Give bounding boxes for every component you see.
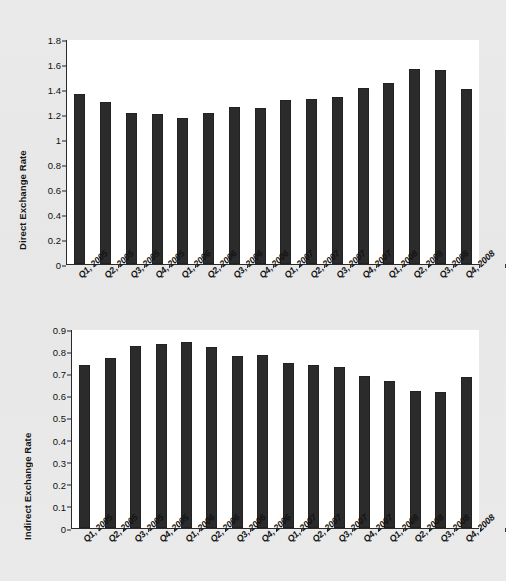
bar-slot bbox=[299, 40, 325, 264]
bar-slot bbox=[402, 40, 428, 264]
bar bbox=[74, 94, 85, 264]
bar-slot bbox=[93, 40, 119, 264]
bar bbox=[105, 358, 116, 528]
bar bbox=[334, 367, 345, 528]
y-tick-label: 0.6 bbox=[53, 391, 66, 402]
bar bbox=[177, 118, 188, 264]
bar-slot bbox=[170, 40, 196, 264]
y-tick-label: 0.2 bbox=[48, 235, 61, 246]
bar-slot bbox=[123, 330, 148, 528]
bar bbox=[461, 377, 472, 528]
y-tick-label: 1.2 bbox=[48, 110, 61, 121]
bar-slot bbox=[326, 330, 351, 528]
bar bbox=[255, 108, 266, 264]
bar bbox=[181, 342, 192, 528]
y-axis-ticks-bottom: 00.10.20.30.40.50.60.70.80.9 bbox=[45, 330, 71, 530]
bar-slot bbox=[119, 40, 145, 264]
bar bbox=[232, 356, 243, 528]
x-axis-labels-bottom: Q1, 2005Q2, 2005Q3, 2005Q4, 2005Q1, 2006… bbox=[98, 528, 506, 581]
bar bbox=[257, 355, 268, 528]
bar-slot bbox=[301, 330, 326, 528]
bar-slot bbox=[352, 330, 377, 528]
y-tick-label: 1.6 bbox=[48, 60, 61, 71]
bar bbox=[461, 89, 472, 264]
y-tick-mark bbox=[62, 265, 66, 266]
y-tick-label: 0.9 bbox=[53, 325, 66, 336]
y-tick-label: 0.8 bbox=[48, 160, 61, 171]
y-tick-label: 0.2 bbox=[53, 479, 66, 490]
chart-indirect-exchange-rate: Indirect Exchange Rate 00.10.20.30.40.50… bbox=[0, 305, 505, 581]
bar bbox=[435, 70, 446, 264]
bar-group-top bbox=[67, 40, 479, 264]
y-tick-label: 0.5 bbox=[53, 413, 66, 424]
y-tick-label: 1.8 bbox=[48, 35, 61, 46]
bar bbox=[152, 114, 163, 264]
bar-slot bbox=[148, 330, 173, 528]
bar bbox=[203, 113, 214, 264]
bar-slot bbox=[350, 40, 376, 264]
bar bbox=[306, 99, 317, 264]
bar-group-bottom bbox=[72, 330, 479, 528]
y-tick-label: 1 bbox=[56, 135, 61, 146]
plot-wrapper-top: 00.20.40.60.811.21.41.61.8 Q1, 2005Q2, 2… bbox=[40, 40, 480, 266]
y-tick-label: 0.6 bbox=[48, 185, 61, 196]
bar bbox=[206, 347, 217, 528]
bar bbox=[384, 381, 395, 528]
bar bbox=[332, 97, 343, 265]
bar bbox=[359, 376, 370, 528]
bar bbox=[280, 100, 291, 264]
bar-slot bbox=[225, 330, 250, 528]
bar-slot bbox=[97, 330, 122, 528]
bar-slot bbox=[428, 330, 453, 528]
bar-slot bbox=[273, 40, 299, 264]
y-tick-mark bbox=[67, 529, 71, 530]
bar bbox=[126, 113, 137, 264]
y-tick-label: 0.4 bbox=[53, 435, 66, 446]
y-tick-label: 0.1 bbox=[53, 501, 66, 512]
y-tick-label: 0.3 bbox=[53, 457, 66, 468]
bar bbox=[409, 69, 420, 264]
y-axis-label: Indirect Exchange Rate bbox=[22, 360, 33, 540]
bar-slot bbox=[199, 330, 224, 528]
y-tick-label: 0.4 bbox=[48, 210, 61, 221]
bar bbox=[229, 107, 240, 265]
bar bbox=[358, 88, 369, 264]
bar-slot bbox=[403, 330, 428, 528]
bar bbox=[79, 365, 90, 528]
x-label-slot: Q4, 2008 bbox=[481, 528, 506, 581]
y-axis-label: Direct Exchange Rate bbox=[17, 70, 28, 250]
bar-slot bbox=[250, 330, 275, 528]
bar bbox=[410, 391, 421, 528]
plot-wrapper-bottom: 00.10.20.30.40.50.60.70.80.9 Q1, 2005Q2,… bbox=[45, 330, 480, 530]
bar bbox=[130, 346, 141, 528]
bar-slot bbox=[222, 40, 248, 264]
bar-slot bbox=[453, 40, 479, 264]
plot-area-top: Q1, 2005Q2, 2005Q3, 2005Q4, 2005Q1, 2006… bbox=[66, 40, 479, 265]
bar bbox=[100, 102, 111, 265]
bar-slot bbox=[144, 40, 170, 264]
bar bbox=[383, 83, 394, 264]
chart-direct-exchange-rate: Direct Exchange Rate 00.20.40.60.811.21.… bbox=[0, 10, 505, 305]
bar bbox=[435, 392, 446, 528]
bar-slot bbox=[247, 40, 273, 264]
bar-slot bbox=[376, 40, 402, 264]
y-tick-label: 0 bbox=[61, 524, 66, 535]
plot-area-bottom: Q1, 2005Q2, 2005Q3, 2005Q4, 2005Q1, 2006… bbox=[71, 330, 479, 529]
bar-slot bbox=[276, 330, 301, 528]
bar-slot bbox=[325, 40, 351, 264]
y-tick-label: 0.7 bbox=[53, 369, 66, 380]
y-tick-label: 0 bbox=[56, 260, 61, 271]
bar bbox=[283, 363, 294, 528]
bar bbox=[156, 344, 167, 528]
y-axis-ticks-top: 00.20.40.60.811.21.41.61.8 bbox=[40, 40, 66, 266]
bar-slot bbox=[196, 40, 222, 264]
y-tick-label: 0.8 bbox=[53, 347, 66, 358]
bar-slot bbox=[174, 330, 199, 528]
bar bbox=[308, 365, 319, 528]
bar-slot bbox=[454, 330, 479, 528]
y-tick-label: 1.4 bbox=[48, 85, 61, 96]
bar-slot bbox=[67, 40, 93, 264]
bar-slot bbox=[377, 330, 402, 528]
bar-slot bbox=[428, 40, 454, 264]
